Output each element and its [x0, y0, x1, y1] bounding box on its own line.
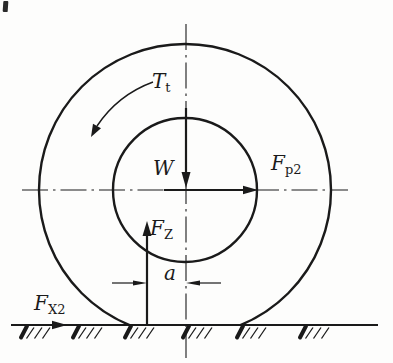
- corner-scan-artifact: [3, 1, 9, 12]
- weight-arrowhead-icon: [182, 172, 191, 188]
- torque-arc-arrow: [91, 82, 153, 137]
- push-force-arrow: [164, 186, 258, 194]
- weight-label: W: [153, 158, 174, 181]
- normal-force-label: FZ: [150, 218, 173, 241]
- force-diagram: Tt W Fp2 FZ a FX2: [0, 0, 393, 363]
- offset-distance-label: a: [164, 263, 176, 286]
- ground-hatching: [21, 326, 329, 339]
- traction-force-label: FX2: [34, 293, 65, 316]
- torque-label: Tt: [152, 71, 171, 94]
- torque-arrowhead-icon: [91, 124, 101, 137]
- dimension-arrow-right-icon: [133, 280, 147, 285]
- weight-force-arrow: [182, 108, 191, 188]
- traction-force-arrowhead-icon: [52, 321, 67, 329]
- dimension-arrow-left-icon: [186, 280, 200, 285]
- push-force-label: Fp2: [271, 153, 301, 176]
